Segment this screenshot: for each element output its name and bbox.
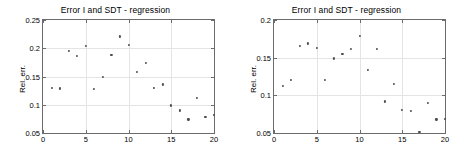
y-tick-label: 0.05	[256, 129, 271, 138]
data-point-marker	[299, 45, 301, 47]
y-tick-label: 0.2	[30, 44, 40, 53]
data-point-marker	[179, 109, 181, 111]
data-point-marker	[213, 114, 215, 116]
gridline-vertical	[402, 20, 403, 133]
data-point-marker	[427, 102, 429, 104]
y-tick-mark	[43, 133, 46, 134]
y-tick-mark	[274, 133, 277, 134]
data-point-marker	[162, 83, 164, 85]
x-tick-mark	[129, 130, 130, 133]
data-point-marker	[59, 87, 61, 89]
x-tick-mark	[360, 130, 361, 133]
gridline-vertical	[171, 20, 172, 133]
gridline-vertical	[129, 20, 130, 133]
x-tick-mark	[214, 20, 215, 23]
data-point-marker	[50, 87, 52, 89]
y-tick-label: 0.2	[261, 16, 271, 25]
data-point-marker	[187, 118, 189, 120]
y-tick-label: 0.15	[25, 72, 40, 81]
figure-canvas: Error I and SDT - regression Rel. err. 0…	[0, 0, 462, 158]
x-tick-mark	[402, 20, 403, 23]
data-point-marker	[119, 35, 121, 37]
y-tick-mark	[442, 58, 445, 59]
x-tick-label: 10	[355, 135, 363, 144]
x-tick-mark	[317, 20, 318, 23]
x-tick-label: 20	[441, 135, 449, 144]
data-point-marker	[136, 71, 138, 73]
data-point-marker	[341, 53, 343, 55]
chart-title-right: Error I and SDT - regression	[231, 5, 462, 15]
x-tick-mark	[402, 130, 403, 133]
plot-area-left: 0.050.10.150.20.2505101520	[42, 19, 215, 134]
data-point-marker	[418, 131, 420, 133]
chart-title-left: Error I and SDT - regression	[0, 5, 231, 15]
data-point-marker	[93, 88, 95, 90]
x-tick-mark	[86, 20, 87, 23]
data-point-marker	[384, 100, 386, 102]
x-tick-label: 15	[398, 135, 406, 144]
y-tick-mark	[43, 105, 46, 106]
data-point-marker	[196, 97, 198, 99]
data-point-marker	[76, 55, 78, 57]
x-tick-mark	[274, 20, 275, 23]
y-tick-mark	[442, 133, 445, 134]
y-tick-mark	[43, 77, 46, 78]
y-tick-label: 0.1	[30, 100, 40, 109]
y-tick-mark	[43, 48, 46, 49]
x-tick-mark	[171, 130, 172, 133]
data-point-marker	[350, 48, 352, 50]
y-axis-label-right: Rel. err.	[249, 65, 258, 93]
x-tick-mark	[445, 130, 446, 133]
data-point-marker	[290, 79, 292, 81]
y-tick-label: 0.15	[256, 53, 271, 62]
data-point-marker	[307, 42, 309, 44]
data-point-marker	[145, 62, 147, 64]
data-point-marker	[68, 50, 70, 52]
x-tick-mark	[214, 130, 215, 133]
y-tick-mark	[442, 95, 445, 96]
data-point-marker	[153, 87, 155, 89]
y-tick-mark	[211, 105, 214, 106]
data-point-marker	[281, 85, 283, 87]
x-tick-mark	[43, 130, 44, 133]
data-point-marker	[110, 54, 112, 56]
y-tick-label: 0.1	[261, 91, 271, 100]
x-tick-label: 5	[84, 135, 88, 144]
gridline-vertical	[360, 20, 361, 133]
y-tick-mark	[211, 48, 214, 49]
y-tick-mark	[211, 77, 214, 78]
data-point-marker	[376, 48, 378, 50]
x-tick-label: 0	[41, 135, 45, 144]
chart-panel-left: Error I and SDT - regression Rel. err. 0…	[0, 0, 231, 158]
y-tick-mark	[274, 58, 277, 59]
data-point-marker	[333, 57, 335, 59]
x-tick-label: 5	[315, 135, 319, 144]
x-tick-mark	[86, 130, 87, 133]
x-tick-mark	[317, 130, 318, 133]
data-point-marker	[204, 116, 206, 118]
x-tick-label: 15	[167, 135, 175, 144]
gridline-vertical	[317, 20, 318, 133]
data-point-marker	[393, 83, 395, 85]
x-tick-label: 0	[272, 135, 276, 144]
data-point-marker	[367, 69, 369, 71]
plot-area-right: 0.050.10.150.205101520	[273, 19, 446, 134]
y-tick-label: 0.25	[25, 16, 40, 25]
x-tick-mark	[360, 20, 361, 23]
y-tick-mark	[274, 95, 277, 96]
data-point-marker	[435, 118, 437, 120]
y-tick-label: 0.05	[25, 129, 40, 138]
x-tick-mark	[43, 20, 44, 23]
x-tick-mark	[274, 130, 275, 133]
x-tick-mark	[445, 20, 446, 23]
data-point-marker	[324, 79, 326, 81]
x-tick-mark	[171, 20, 172, 23]
y-tick-mark	[211, 133, 214, 134]
x-tick-label: 20	[210, 135, 218, 144]
data-point-marker	[444, 118, 446, 120]
x-tick-mark	[129, 20, 130, 23]
data-point-marker	[410, 110, 412, 112]
x-tick-label: 10	[124, 135, 132, 144]
gridline-vertical	[86, 20, 87, 133]
chart-panel-right: Error I and SDT - regression Rel. err. 0…	[231, 0, 462, 158]
